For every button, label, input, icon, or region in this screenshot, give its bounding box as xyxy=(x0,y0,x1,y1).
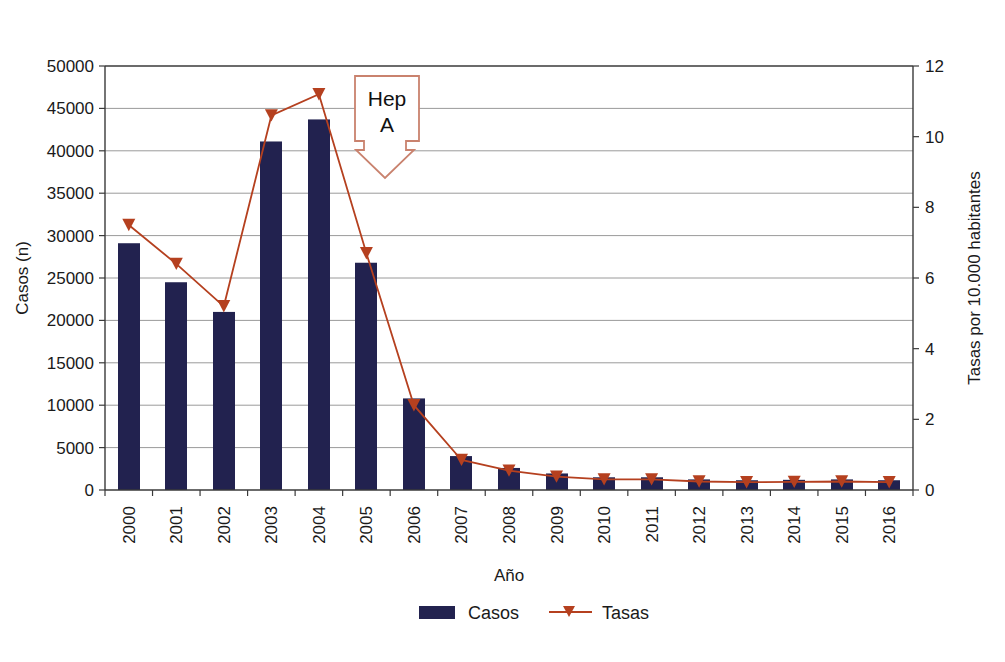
x-tick-label-2014: 2014 xyxy=(785,506,804,544)
y-axis-right-ticks: 024681012 xyxy=(913,57,944,500)
bar-casos-2001 xyxy=(165,282,187,490)
bar-casos-2005 xyxy=(355,263,377,490)
y2-tick-label: 2 xyxy=(925,410,934,429)
legend-swatch-casos xyxy=(419,606,455,619)
chart-legend: Casos Tasas xyxy=(419,603,649,623)
y-tick-label: 20000 xyxy=(47,311,94,330)
y-tick-label: 30000 xyxy=(47,227,94,246)
y-tick-label: 25000 xyxy=(47,269,94,288)
y-tick-label: 15000 xyxy=(47,354,94,373)
x-tick-label-2008: 2008 xyxy=(500,506,519,544)
y-axis-left-title: Casos (n) xyxy=(13,241,32,315)
hep-a-callout-line1: Hep xyxy=(368,87,407,110)
hepatitis-a-combo-chart: 0500010000150002000025000300003500040000… xyxy=(0,0,1005,662)
y2-tick-label: 6 xyxy=(925,269,934,288)
bar-casos-2006 xyxy=(403,398,425,490)
y-tick-label: 40000 xyxy=(47,142,94,161)
bar-casos-2004 xyxy=(308,119,330,490)
x-axis-ticks: 2000200120022003200420052006200720082009… xyxy=(105,490,913,544)
y-tick-label: 45000 xyxy=(47,99,94,118)
y2-tick-label: 8 xyxy=(925,198,934,217)
x-tick-label-2007: 2007 xyxy=(452,506,471,544)
x-tick-label-2000: 2000 xyxy=(120,506,139,544)
x-tick-label-2010: 2010 xyxy=(595,506,614,544)
y-tick-label: 10000 xyxy=(47,396,94,415)
x-tick-label-2012: 2012 xyxy=(690,506,709,544)
x-tick-label-2005: 2005 xyxy=(357,506,376,544)
legend-label-casos: Casos xyxy=(468,603,519,623)
chart-container: 0500010000150002000025000300003500040000… xyxy=(0,0,1005,662)
x-tick-label-2013: 2013 xyxy=(738,506,757,544)
y-axis-left-ticks: 0500010000150002000025000300003500040000… xyxy=(47,57,105,500)
x-tick-label-2002: 2002 xyxy=(215,506,234,544)
y-tick-label: 5000 xyxy=(56,439,94,458)
x-tick-label-2009: 2009 xyxy=(548,506,567,544)
x-axis-title: Año xyxy=(494,566,524,585)
y-tick-label: 35000 xyxy=(47,184,94,203)
y2-tick-label: 10 xyxy=(925,128,944,147)
bar-casos-2002 xyxy=(213,312,235,490)
y-axis-right-title: Tasas por 10.000 habitantes xyxy=(965,171,984,385)
y-tick-label: 50000 xyxy=(47,57,94,76)
x-tick-label-2006: 2006 xyxy=(405,506,424,544)
hep-a-callout-line2: A xyxy=(380,113,394,136)
y2-tick-label: 4 xyxy=(925,340,934,359)
bar-casos-2003 xyxy=(260,141,282,490)
bar-casos-2000 xyxy=(118,243,140,490)
legend-label-tasas: Tasas xyxy=(602,603,649,623)
y2-tick-label: 12 xyxy=(925,57,944,76)
x-tick-label-2016: 2016 xyxy=(880,506,899,544)
y-tick-label: 0 xyxy=(85,481,94,500)
x-tick-label-2004: 2004 xyxy=(310,506,329,544)
x-tick-label-2003: 2003 xyxy=(262,506,281,544)
y2-tick-label: 0 xyxy=(925,481,934,500)
x-tick-label-2001: 2001 xyxy=(167,506,186,544)
x-tick-label-2011: 2011 xyxy=(643,506,662,543)
x-tick-label-2015: 2015 xyxy=(833,506,852,544)
